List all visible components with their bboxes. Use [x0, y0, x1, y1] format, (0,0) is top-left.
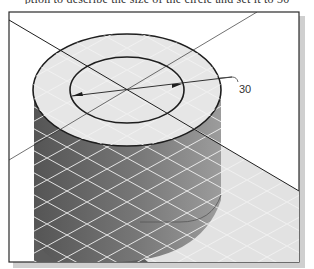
dimension-value-label: 30: [239, 83, 251, 95]
cad-viewport-figure: 30: [0, 0, 314, 269]
